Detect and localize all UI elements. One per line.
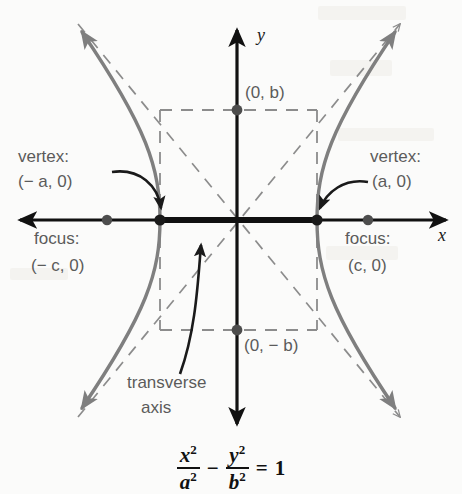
x-axis-label: x	[438, 226, 446, 244]
focus-right-label: focus:	[345, 228, 390, 249]
hyperbola-left-branch-upper	[82, 32, 160, 220]
hyperbola-equation: x2 a2 − y2 b2 = 1	[0, 443, 462, 493]
leader-arrows	[112, 171, 368, 374]
focus-left-title: focus:	[34, 229, 79, 248]
vertex-right-point	[311, 214, 322, 225]
numerator-x-exponent: 2	[190, 442, 197, 457]
covertex-top-label: (0, b)	[245, 83, 285, 103]
covertex-bottom-point	[232, 325, 243, 336]
hyperbola-figure: y x vertex: (− a, 0) focus: (− c, 0) ver…	[0, 0, 462, 494]
equation-row: x2 a2 − y2 b2 = 1	[177, 443, 285, 493]
focus-right-title: focus:	[345, 229, 390, 248]
denominator-b-base: b	[229, 470, 240, 494]
vertex-right-coords-text: (a, 0)	[372, 172, 412, 191]
equation-equals-sign: =	[256, 456, 268, 481]
equation-right-hand-side: 1	[275, 456, 286, 481]
denominator-a-exponent: 2	[190, 469, 197, 484]
denominator-b-exponent: 2	[239, 469, 246, 484]
numerator-x-base: x	[180, 443, 191, 467]
fraction-x-squared-over-a-squared: x2 a2	[177, 443, 200, 493]
vertex-right-title: vertex:	[370, 147, 421, 166]
transverse-axis-leader-arrow	[180, 245, 201, 374]
vertex-left-label: vertex:	[18, 146, 69, 167]
covertex-bottom-label: (0, − b)	[244, 336, 298, 356]
denominator-a-base: a	[180, 470, 191, 494]
numerator-y-base: y	[229, 443, 238, 467]
fraction-y-squared-over-b-squared: y2 b2	[226, 443, 249, 493]
vertex-right-coords: (a, 0)	[372, 171, 412, 192]
fraction-numerator-y: y2	[226, 443, 248, 467]
focus-right-coords-text: (c, 0)	[348, 256, 387, 275]
vertex-right-label: vertex:	[370, 146, 421, 167]
transverse-axis-text-2: axis	[141, 398, 171, 417]
focus-left-point	[102, 215, 112, 225]
focus-left-coords-text: (− c, 0)	[31, 256, 84, 275]
transverse-axis-label-line2: axis	[141, 397, 171, 418]
vertex-left-coords-text: (− a, 0)	[18, 172, 72, 191]
transverse-axis-label-line1: transverse	[127, 372, 206, 393]
fraction-denominator-b: b2	[226, 469, 249, 493]
vertex-left-point	[154, 214, 165, 225]
covertex-top-point	[232, 105, 243, 116]
equation-minus-operator: −	[207, 456, 219, 481]
vertex-left-title: vertex:	[18, 147, 69, 166]
y-axis-label: y	[257, 26, 265, 44]
transverse-axis-text-1: transverse	[127, 373, 206, 392]
focus-left-label: focus:	[34, 228, 79, 249]
numerator-y-exponent: 2	[239, 442, 246, 457]
focus-right-point	[363, 215, 373, 225]
vertex-left-coords: (− a, 0)	[18, 171, 72, 192]
fraction-numerator-x: x2	[177, 443, 200, 467]
vertex-right-leader-arrow	[320, 181, 368, 208]
focus-left-coords: (− c, 0)	[31, 255, 84, 276]
vertex-left-leader-arrow	[112, 171, 161, 208]
focus-right-coords: (c, 0)	[348, 255, 387, 276]
fraction-denominator-a: a2	[177, 469, 200, 493]
